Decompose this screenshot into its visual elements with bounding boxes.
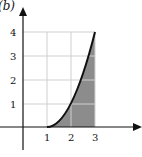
y-axis-arrow-icon	[19, 7, 27, 16]
x-tick-label-1: 1	[44, 132, 50, 143]
y-tick-label-3: 3	[10, 51, 16, 62]
figure-label: (b)	[0, 0, 15, 13]
y-tick-label-1: 1	[10, 99, 16, 110]
y-tick-label-2: 2	[10, 75, 16, 86]
x-axis-arrow-icon	[133, 123, 142, 131]
axes	[0, 14, 134, 150]
x-tick-label-3: 3	[92, 132, 98, 143]
graph-figure: (b) 4 3 2 1 1 2 3	[0, 0, 142, 157]
x-tick-label-2: 2	[68, 132, 74, 143]
y-tick-label-4: 4	[10, 27, 16, 38]
